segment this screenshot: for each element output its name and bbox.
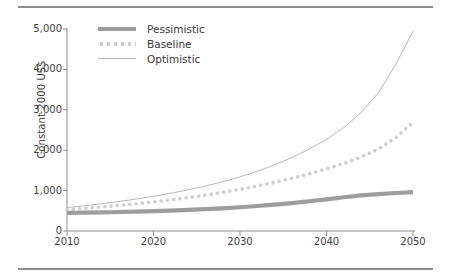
legend-swatch-pessimistic-icon [96,23,138,35]
legend-label-optimistic: Optimistic [147,53,200,65]
y-tick-label: 5,000 [22,24,62,34]
y-tick-label: 1,000 [22,186,62,196]
chart-legend: Pessimistic Baseline Optimistic [96,21,266,66]
legend-item-pessimistic: Pessimistic [96,21,266,36]
y-tick-label: 2,000 [22,145,62,155]
x-tick-label: 2030 [215,236,265,247]
legend-label-pessimistic: Pessimistic [147,23,205,35]
x-tick-label: 2010 [42,236,92,247]
series-line-pessimistic [67,192,413,213]
legend-item-optimistic: Optimistic [96,51,266,66]
legend-label-baseline: Baseline [147,38,192,50]
y-tick-label: 4,000 [22,64,62,74]
y-tick-label: 0 [22,226,62,236]
y-tick-label: 3,000 [22,105,62,115]
x-tick-label: 2050 [388,236,438,247]
figure-container: Constant 2000 US$ 01,0002,0003,0004,0005… [0,0,449,278]
x-tick-label: 2020 [129,236,179,247]
legend-item-baseline: Baseline [96,36,266,51]
x-tick-label: 2040 [302,236,352,247]
legend-swatch-baseline-icon [96,38,138,50]
legend-swatch-optimistic-icon [96,53,138,65]
